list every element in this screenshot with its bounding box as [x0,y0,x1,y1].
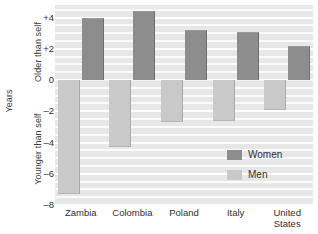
y-axis-tick-labels: +4+20–2–4–6–8 [30,0,54,234]
bar-women [237,32,259,80]
legend: WomenMen [227,146,307,186]
x-axis-tick-label: Zambia [55,207,107,218]
gridline-major [55,110,313,112]
gridline-minor [55,196,313,198]
y-axis-tick-label: –8 [30,200,54,210]
bar-women [288,46,310,80]
y-axis-tick-label: +2 [30,44,54,54]
gridline-minor [55,188,313,190]
bar-men [213,80,235,121]
bar-women [133,11,155,80]
gridline-major [55,204,313,205]
bar-men [109,80,131,147]
gridline-major [55,142,313,144]
legend-swatch-men [227,170,242,180]
bar-men [264,80,286,110]
x-axis-tick-label: Poland [158,207,210,218]
gridline-minor [55,126,313,128]
gridline-minor [55,9,313,11]
legend-label: Men [248,169,267,180]
bar-women [185,30,207,80]
y-axis-tick-label: –2 [30,106,54,116]
x-axis-tick-labels: ZambiaColombiaPolandItalyUnited States [55,207,313,234]
legend-swatch-women [227,150,242,160]
gridline-minor [55,134,313,136]
y-axis-tick-label: 0 [30,75,54,85]
bar-men [58,80,80,194]
legend-item: Women [227,146,307,163]
y-axis-tick-label: –6 [30,169,54,179]
bar-men [161,80,183,122]
x-axis-tick-label: United States [261,207,313,229]
x-axis-tick-label: Colombia [107,207,159,218]
y-axis-tick-label: –4 [30,138,54,148]
x-axis-tick-label: Italy [210,207,262,218]
gridline-minor [55,118,313,120]
y-axis-title: Years [4,81,14,121]
bar-chart: Years Older than self Younger than self … [0,0,318,234]
y-axis-tick-label: +4 [30,13,54,23]
legend-label: Women [248,149,282,160]
bar-women [82,18,104,81]
legend-item: Men [227,166,307,183]
